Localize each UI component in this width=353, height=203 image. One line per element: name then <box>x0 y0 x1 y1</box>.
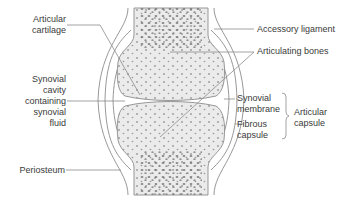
label-articulating-bones: Articulating bones <box>257 46 329 57</box>
label-articular-capsule: Articular capsule <box>294 107 327 129</box>
label-fibrous-capsule: Fibrous capsule <box>237 119 268 141</box>
lower-bone <box>117 102 224 196</box>
label-periosteum: Periosteum <box>5 165 65 176</box>
synovial-joint-diagram: Articular cartilage Synovial cavity cont… <box>0 0 353 203</box>
label-synovial-membrane: Synovial membrane <box>237 93 280 115</box>
label-articular-cartilage: Articular cartilage <box>20 14 66 36</box>
label-synovial-cavity: Synovial cavity containing synovial flui… <box>10 74 66 129</box>
label-accessory-ligament: Accessory ligament <box>257 24 335 35</box>
articular-capsule-bracket <box>282 93 289 139</box>
upper-bone <box>117 8 224 101</box>
